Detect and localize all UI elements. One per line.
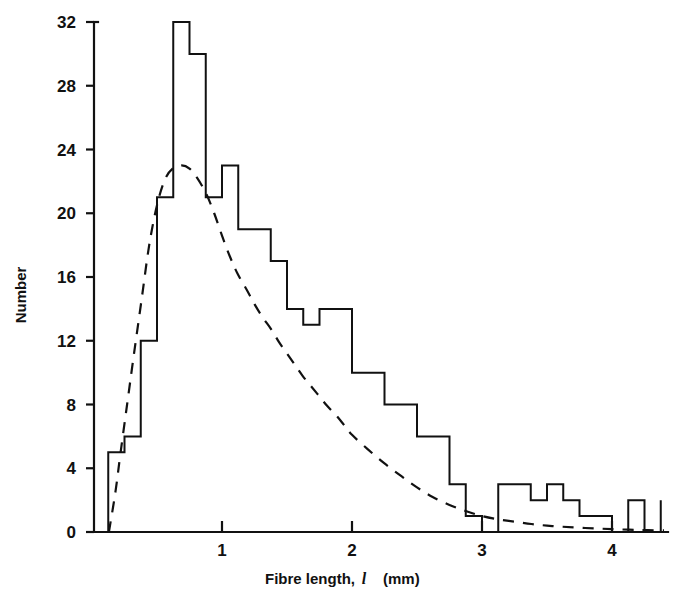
- x-axis-title-symbol: l: [362, 570, 367, 587]
- x-axis-title-prefix: Fibre length,: [265, 570, 355, 587]
- y-tick-label: 32: [57, 13, 76, 32]
- y-tick-label: 24: [57, 141, 76, 160]
- y-tick-label: 0: [67, 523, 76, 542]
- y-axis-tick-labels: 048121620242832: [57, 13, 76, 542]
- chart-figure: 048121620242832 1234 Number Fibre length…: [0, 0, 683, 606]
- x-tick-label: 2: [347, 541, 356, 560]
- x-tick-label: 4: [607, 541, 617, 560]
- histogram-outline: [108, 22, 661, 532]
- y-axis-title: Number: [12, 267, 29, 324]
- y-tick-label: 12: [57, 332, 76, 351]
- y-tick-label: 20: [57, 204, 76, 223]
- histogram-chart: 048121620242832 1234 Number Fibre length…: [0, 0, 683, 606]
- x-axis-tick-labels: 1234: [217, 541, 617, 560]
- y-tick-label: 16: [57, 268, 76, 287]
- x-tick-label: 3: [477, 541, 486, 560]
- y-tick-label: 4: [67, 459, 77, 478]
- x-tick-label: 1: [217, 541, 226, 560]
- y-axis-ticks: [86, 22, 94, 532]
- y-tick-label: 8: [67, 396, 76, 415]
- y-tick-label: 28: [57, 77, 76, 96]
- x-axis-title-units: (mm): [383, 570, 420, 587]
- fitted-curve: [109, 165, 664, 532]
